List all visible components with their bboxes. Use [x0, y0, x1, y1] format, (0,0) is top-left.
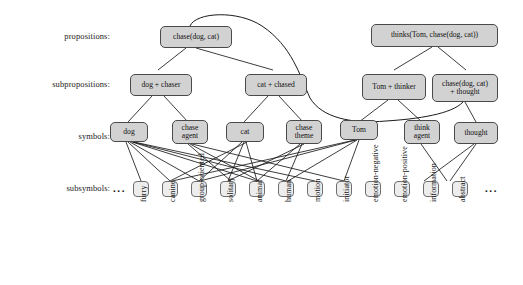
node-subproposition-dog-chaser[interactable]: dog + chaser	[130, 74, 192, 96]
node-subproposition-chase-thought[interactable]: chase(dog, cat) + thought	[432, 74, 498, 102]
subsymbol-label-motion: motion	[313, 179, 322, 202]
node-symbol-chase-agent[interactable]: chase agent	[172, 120, 208, 144]
ellipsis-right: ...	[485, 182, 498, 194]
subsymbol-label-abstract: abstract	[458, 176, 467, 202]
ellipsis-left: ...	[113, 182, 126, 194]
subsymbol-label-initiator: initiator	[342, 176, 351, 202]
subsymbol-label-emotion-negative: emotion-negative	[371, 144, 380, 202]
subsymbol-label-human: human	[284, 180, 293, 202]
subsymbol-label-furry: furry	[139, 186, 148, 203]
subsymbol-label-information: information	[429, 163, 438, 202]
node-symbol-tom[interactable]: Tom	[340, 120, 378, 140]
subsymbol-label-emotion-positive: emotion-positive	[400, 146, 409, 202]
node-subproposition-cat-chased[interactable]: cat + chased	[245, 74, 307, 96]
node-subproposition-tom-thinker[interactable]: Tom + thinker	[362, 74, 426, 100]
node-symbol-chase-theme[interactable]: chase theme	[286, 120, 322, 144]
subsymbol-label-canine: canine	[168, 181, 177, 202]
node-proposition-thinks[interactable]: thinks(Tom, chase(dog, cat))	[371, 24, 498, 47]
subsymbol-label-solitary: solitary	[226, 177, 235, 202]
node-symbol-think-agent[interactable]: think agent	[404, 120, 440, 144]
node-symbol-thought[interactable]: thought	[454, 122, 498, 144]
node-proposition-chase[interactable]: chase(dog, cat)	[160, 26, 232, 48]
node-symbol-cat[interactable]: cat	[226, 122, 264, 142]
node-symbol-dog[interactable]: dog	[110, 122, 148, 142]
subsymbol-label-group-oriented: group-oriented	[197, 153, 206, 202]
diagram-canvas: propositions: subpropositions: symbols: …	[0, 0, 523, 285]
subsymbol-label-animal: animal	[255, 180, 264, 202]
